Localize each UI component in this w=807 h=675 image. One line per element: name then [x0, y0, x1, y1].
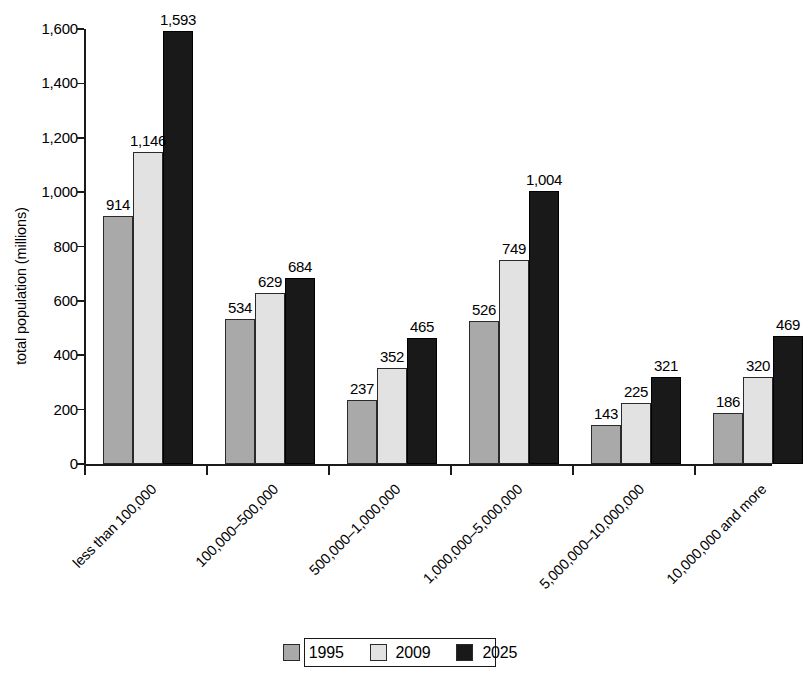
bar-2025-4 — [529, 191, 559, 464]
y-tick-label: 1,000 — [18, 184, 78, 199]
bar-2025-2 — [285, 278, 315, 464]
bar-value-label: 225 — [608, 384, 664, 399]
y-tick-label: 0 — [18, 456, 78, 471]
bar-2009-6 — [743, 377, 773, 464]
bar-1995-5 — [591, 425, 621, 464]
x-axis-line — [84, 464, 772, 466]
legend-entry-2025: 2025 — [443, 644, 530, 662]
legend-swatch-1995 — [283, 644, 300, 661]
bar-value-label: 629 — [242, 274, 298, 289]
x-tick-mark — [450, 466, 452, 475]
x-category-label: 10,000,000 and more — [617, 481, 770, 634]
legend-label: 2025 — [482, 644, 517, 662]
y-tick-label: 1,400 — [18, 75, 78, 90]
bar-value-label: 1,146 — [120, 133, 176, 148]
bar-value-label: 1,004 — [516, 172, 572, 187]
y-tick-label: 1,200 — [18, 130, 78, 145]
x-category-label: 500,000–1,000,000 — [251, 481, 404, 634]
legend-entry-2009: 2009 — [357, 644, 444, 662]
x-tick-mark — [206, 466, 208, 475]
x-category-label: 100,000–500,000 — [129, 481, 282, 634]
chart-legend: 199520092025 — [304, 638, 496, 667]
y-tick-mark — [77, 409, 84, 411]
y-tick-mark — [77, 300, 84, 302]
y-tick-mark — [77, 83, 84, 85]
x-tick-mark — [572, 466, 574, 475]
bar-value-label: 526 — [456, 302, 512, 317]
legend-swatch-2009 — [370, 644, 387, 661]
bar-value-label: 237 — [334, 381, 390, 396]
bar-1995-6 — [713, 413, 743, 464]
bar-value-label: 320 — [730, 358, 786, 373]
bar-2025-6 — [773, 336, 803, 464]
bar-value-label: 684 — [272, 259, 328, 274]
legend-swatch-2025 — [456, 644, 473, 661]
bar-value-label: 321 — [638, 358, 694, 373]
x-tick-mark — [694, 466, 696, 475]
legend-label: 1995 — [309, 644, 344, 662]
bar-value-label: 914 — [90, 197, 146, 212]
legend-label: 2009 — [396, 644, 431, 662]
y-tick-label: 600 — [18, 293, 78, 308]
bar-value-label: 186 — [700, 394, 756, 409]
bar-1995-2 — [225, 319, 255, 464]
bar-value-label: 1,593 — [150, 12, 206, 27]
y-tick-mark — [77, 463, 84, 465]
y-tick-mark — [77, 28, 84, 30]
y-tick-label: 800 — [18, 239, 78, 254]
y-tick-label: 200 — [18, 402, 78, 417]
bar-value-label: 352 — [364, 349, 420, 364]
x-tick-mark — [328, 466, 330, 475]
bar-1995-4 — [469, 321, 499, 464]
x-category-label: less than 100,000 — [7, 481, 160, 634]
bar-1995-1 — [103, 216, 133, 464]
bar-value-label: 143 — [578, 406, 634, 421]
legend-entry-1995: 1995 — [270, 644, 357, 662]
y-tick-mark — [77, 137, 84, 139]
y-tick-label: 1,600 — [18, 21, 78, 36]
bar-value-label: 465 — [394, 319, 450, 334]
bar-value-label: 469 — [760, 317, 807, 332]
bar-2009-2 — [255, 293, 285, 464]
x-category-label: 5,000,000–10,000,000 — [495, 481, 648, 634]
bar-2025-1 — [163, 31, 193, 464]
x-category-label: 1,000,000–5,000,000 — [373, 481, 526, 634]
bar-2009-4 — [499, 260, 529, 464]
y-axis-line — [84, 29, 86, 465]
x-tick-mark — [84, 466, 86, 475]
y-tick-label: 400 — [18, 347, 78, 362]
bar-1995-3 — [347, 400, 377, 464]
y-tick-mark — [77, 354, 84, 356]
y-tick-mark — [77, 191, 84, 193]
bar-value-label: 749 — [486, 241, 542, 256]
y-tick-mark — [77, 246, 84, 248]
bar-value-label: 534 — [212, 300, 268, 315]
